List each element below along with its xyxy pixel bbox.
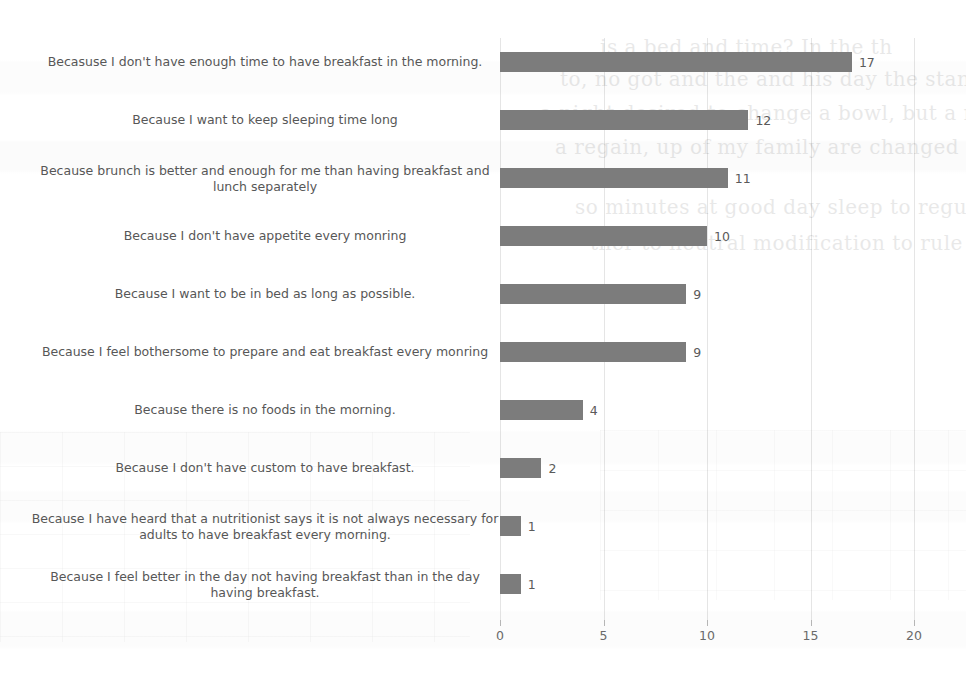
category-label: Becasuse I don't have enough time to hav… (30, 54, 500, 70)
bar (500, 226, 707, 246)
bar-row: Because I feel bothersome to prepare and… (0, 323, 966, 381)
bar-value-label: 12 (755, 113, 771, 128)
bar-value-label: 17 (859, 55, 875, 70)
bar-row: Because there is no foods in the morning… (0, 381, 966, 439)
bar-value-label: 4 (590, 403, 598, 418)
bar-row: Because brunch is better and enough for … (0, 149, 966, 207)
horizontal-bar-chart: Becasuse I don't have enough time to hav… (0, 0, 966, 681)
bar (500, 284, 686, 304)
bar-value-label: 11 (735, 171, 751, 186)
x-tick-label-5: 5 (600, 628, 608, 643)
bar (500, 110, 748, 130)
x-tick-0 (500, 620, 501, 626)
category-label: Because I don't have appetite every monr… (30, 228, 500, 244)
x-tick-15 (811, 620, 812, 626)
category-label: Because I feel bothersome to prepare and… (30, 344, 500, 360)
bar-value-label: 1 (528, 519, 536, 534)
bar-row: Because I don't have custom to have brea… (0, 439, 966, 497)
bar-value-label: 9 (693, 287, 701, 302)
x-tick-10 (707, 620, 708, 626)
x-tick-label-20: 20 (906, 628, 922, 643)
bar-row: Because I want to be in bed as long as p… (0, 265, 966, 323)
bar-row: Becasuse I don't have enough time to hav… (0, 33, 966, 91)
bar-row: Because I want to keep sleeping time lon… (0, 91, 966, 149)
category-label: Because I feel better in the day not hav… (30, 569, 500, 600)
x-tick-5 (604, 620, 605, 626)
bar-row: Because I have heard that a nutritionist… (0, 497, 966, 555)
bar-value-label: 9 (693, 345, 701, 360)
bar-value-label: 10 (714, 229, 730, 244)
bar (500, 342, 686, 362)
x-tick-20 (914, 620, 915, 626)
category-label: Because brunch is better and enough for … (30, 163, 500, 194)
category-label: Because I want to keep sleeping time lon… (30, 112, 500, 128)
bar (500, 458, 541, 478)
category-label: Because there is no foods in the morning… (30, 402, 500, 418)
category-label: Because I have heard that a nutritionist… (30, 511, 500, 542)
bar-value-label: 1 (528, 577, 536, 592)
category-label: Because I don't have custom to have brea… (30, 460, 500, 476)
x-tick-label-10: 10 (699, 628, 715, 643)
bar-row: Because I feel better in the day not hav… (0, 555, 966, 613)
bar (500, 516, 521, 536)
bar (500, 52, 852, 72)
bar-value-label: 2 (548, 461, 556, 476)
category-label: Because I want to be in bed as long as p… (30, 286, 500, 302)
bar (500, 400, 583, 420)
x-tick-label-0: 0 (496, 628, 504, 643)
x-tick-label-15: 15 (803, 628, 819, 643)
bar (500, 574, 521, 594)
bar-row: Because I don't have appetite every monr… (0, 207, 966, 265)
bar (500, 168, 728, 188)
